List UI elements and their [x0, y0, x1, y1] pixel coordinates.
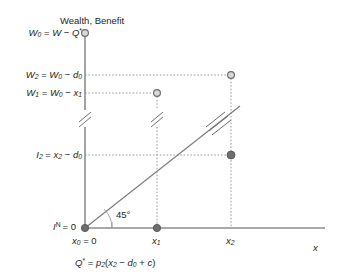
label-x0: x0 = 0 [72, 236, 97, 247]
label-w1: W1 = W0 − x1 [0, 88, 82, 99]
caption-q-star: Q* = p2(x2 − d0 + c) [75, 258, 155, 269]
label-x1: x1 [152, 236, 161, 247]
filled-marker-group [81, 151, 235, 231]
diagram-canvas [0, 0, 345, 280]
label-x2: x2 [226, 236, 235, 247]
label-angle: 45° [116, 210, 130, 220]
label-i2: I2 = x2 − d0 [0, 150, 82, 161]
x-axis-title: x [313, 243, 318, 253]
label-in-zero: IN = 0 [0, 222, 76, 232]
marker-w1 [154, 90, 161, 97]
y-axis-title: Wealth, Benefit [60, 15, 124, 26]
marker-i2 [227, 151, 235, 159]
economics-diagram: Wealth, Benefit W0 = W − Q* W2 = W0 − d0… [0, 0, 345, 280]
marker-w0 [82, 30, 89, 37]
marker-w2 [228, 72, 235, 79]
label-w2: W2 = W0 − d0 [0, 70, 82, 81]
label-w0: W0 = W − Q* [0, 28, 82, 39]
marker-x1-axis [153, 224, 160, 231]
marker-origin [81, 224, 88, 231]
open-marker-group [82, 30, 235, 97]
